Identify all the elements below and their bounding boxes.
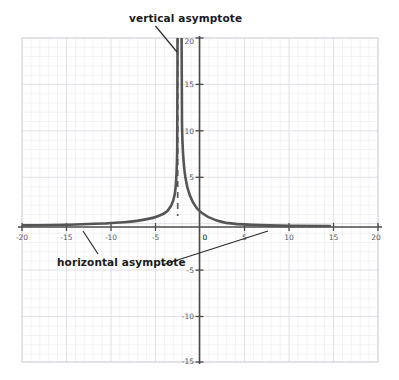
x-tick-label: -5 bbox=[152, 233, 160, 242]
vertical-asymptote-label: vertical asymptote bbox=[129, 12, 242, 24]
x-tick-label: -20 bbox=[16, 233, 28, 242]
y-tick-label: 15 bbox=[184, 80, 194, 89]
y-tick-label: -15 bbox=[182, 357, 194, 366]
coordinate-plane-svg: -20 -15 -10 -5 0 5 10 15 20 20 15 10 5 -… bbox=[0, 0, 399, 380]
x-tick-label: 15 bbox=[329, 233, 339, 242]
y-tick-label: 10 bbox=[184, 127, 194, 136]
y-tick-label: 20 bbox=[184, 37, 194, 46]
origin-label: 0 bbox=[203, 233, 208, 242]
y-tick-label: -5 bbox=[187, 266, 195, 275]
graph-figure: -20 -15 -10 -5 0 5 10 15 20 20 15 10 5 -… bbox=[0, 0, 399, 380]
y-tick-label: 5 bbox=[189, 173, 194, 182]
x-tick-label: -15 bbox=[60, 233, 72, 242]
x-tick-label: 20 bbox=[371, 233, 381, 242]
x-tick-label: -10 bbox=[105, 233, 117, 242]
horizontal-asymptote-label: horizontal asymptote bbox=[57, 256, 186, 268]
y-tick-label: -10 bbox=[182, 312, 194, 321]
x-tick-label: 10 bbox=[284, 233, 294, 242]
